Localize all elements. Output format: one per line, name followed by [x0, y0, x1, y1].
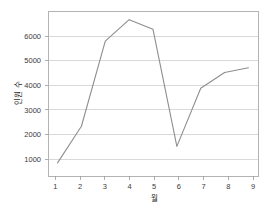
x-axis-title: 월	[151, 193, 158, 203]
ytick-label-1000: 1000	[24, 155, 41, 164]
ytick-label-3000: 3000	[24, 106, 41, 115]
ytick-label-6000: 6000	[24, 32, 41, 41]
xtick-label-5: 5	[152, 182, 156, 191]
y-axis-title: 인원 수	[13, 81, 23, 104]
xtick-label-3: 3	[103, 182, 107, 191]
chart-canvas: 1000 2000 3000 4000 5000 6000 1 2 3 4 5 …	[0, 0, 276, 209]
xtick-label-8: 8	[226, 182, 230, 191]
xtick-label-2: 2	[78, 182, 82, 191]
ytick-label-4000: 4000	[24, 81, 41, 90]
line-chart: 1000 2000 3000 4000 5000 6000 1 2 3 4 5 …	[0, 0, 276, 209]
xtick-label-7: 7	[202, 182, 206, 191]
xtick-label-6: 6	[177, 182, 181, 191]
ytick-label-2000: 2000	[24, 130, 41, 139]
xtick-label-9: 9	[251, 182, 255, 191]
chart-background	[0, 0, 276, 209]
ytick-label-5000: 5000	[24, 56, 41, 65]
xtick-label-1: 1	[53, 182, 57, 191]
xtick-label-4: 4	[127, 182, 131, 191]
